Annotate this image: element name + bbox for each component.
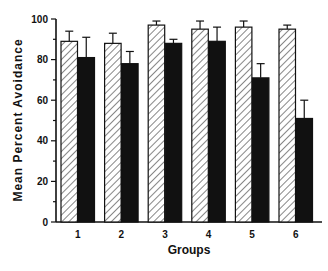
bar-solid (78, 58, 95, 222)
bar-hatched (105, 43, 122, 222)
y-tick-label: 60 (37, 95, 49, 106)
x-tick-label: 5 (249, 229, 255, 240)
bar-hatched (235, 27, 252, 222)
y-tick-label: 80 (37, 54, 49, 65)
bar-solid (252, 78, 269, 222)
y-tick-label: 0 (42, 217, 48, 228)
y-axis-title: Mean Percent Avoidance (11, 38, 25, 201)
bar-hatched (61, 41, 78, 222)
x-tick-label: 2 (119, 229, 125, 240)
y-tick-label: 40 (37, 135, 49, 146)
bar-solid (296, 118, 313, 222)
bar-solid (122, 64, 139, 222)
bar-hatched (192, 29, 209, 222)
bar-solid (209, 41, 226, 222)
x-tick-label: 3 (162, 229, 168, 240)
x-tick-label: 6 (293, 229, 299, 240)
x-axis-title: Groups (168, 243, 211, 257)
x-tick-label: 1 (75, 229, 81, 240)
x-tick-label: 4 (206, 229, 212, 240)
y-tick-label: 100 (31, 14, 48, 25)
bars (61, 21, 313, 222)
y-tick-label: 20 (37, 176, 49, 187)
bar-chart: 020406080100123456 Groups Mean Percent A… (0, 0, 328, 271)
bar-hatched (148, 25, 165, 222)
bar-hatched (279, 29, 296, 222)
bar-solid (165, 43, 182, 222)
